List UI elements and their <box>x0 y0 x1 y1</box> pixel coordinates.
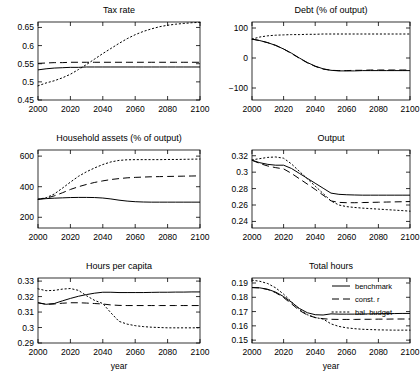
series-line-bal-budget <box>38 22 200 85</box>
x-tick-label: 2000 <box>243 347 262 357</box>
y-tick-label: 0.16 <box>231 321 248 331</box>
series-line-benchmark <box>38 197 200 202</box>
x-tick-label: 2060 <box>126 104 145 114</box>
x-tick-label: 2040 <box>306 104 325 114</box>
x-tick-label: 2100 <box>191 104 210 114</box>
legend-label: const. r <box>355 295 380 304</box>
chart-title: Debt (% of output) <box>294 5 367 15</box>
x-tick-label: 2040 <box>306 232 325 242</box>
y-tick-label: 0.65 <box>17 22 34 32</box>
chart-panel-tax-rate: Tax rate2000202020402060208021000.450.50… <box>0 0 210 128</box>
chart-title: Output <box>317 133 345 143</box>
chart-title: Total hours <box>309 261 354 271</box>
x-tick-label: 2080 <box>158 232 177 242</box>
y-tick-label: 0.17 <box>231 307 248 317</box>
x-tick-label: 2100 <box>401 232 420 242</box>
y-tick-label: 0.26 <box>231 200 248 210</box>
series-line-const-r <box>38 176 200 199</box>
chart-panel-total-hours: Total hours2000202020402060208021000.150… <box>210 256 420 383</box>
series-line-benchmark <box>252 39 410 71</box>
y-tick-label: 600 <box>20 151 34 161</box>
series-line-bal-budget <box>252 34 410 39</box>
y-tick-label: 0.6 <box>22 41 34 51</box>
x-tick-label: 2020 <box>274 347 293 357</box>
y-tick-label: 0.19 <box>231 278 248 288</box>
x-tick-label: 2060 <box>126 347 145 357</box>
x-tick-label: 2040 <box>93 104 112 114</box>
series-line-const-r <box>38 303 200 306</box>
x-tick-label: 2020 <box>61 347 80 357</box>
series-line-const-r <box>38 62 200 63</box>
x-tick-label: 2000 <box>29 347 48 357</box>
y-tick-label: 0.32 <box>231 151 248 161</box>
y-tick-label: 0.28 <box>231 184 248 194</box>
chart-panel-household-assets: Household assets (% of output)2000202020… <box>0 128 210 256</box>
y-tick-label: 0.31 <box>17 307 34 317</box>
plot-frame <box>252 150 410 228</box>
x-tick-label: 2100 <box>191 347 210 357</box>
chart-panel-debt: Debt (% of output)2000202020402060208021… <box>210 0 420 128</box>
y-tick-label: 0.32 <box>17 292 34 302</box>
plot-frame <box>38 278 200 343</box>
chart-title: Tax rate <box>103 5 135 15</box>
legend-label: benchmark <box>355 282 392 291</box>
legend-label: bal. budget <box>355 308 393 317</box>
x-tick-label: 2060 <box>337 104 356 114</box>
series-line-bal-budget <box>38 289 200 328</box>
x-tick-label: 2020 <box>61 232 80 242</box>
series-line-const-r <box>252 39 410 71</box>
chart-title: Household assets (% of output) <box>56 133 182 143</box>
y-tick-label: 0.15 <box>231 335 248 345</box>
y-tick-label: 0.45 <box>17 95 34 105</box>
x-axis-label: year <box>323 361 340 371</box>
x-tick-label: 2040 <box>93 232 112 242</box>
y-tick-label: 0.33 <box>17 276 34 286</box>
x-axis-label: year <box>111 361 128 371</box>
series-line-const-r <box>252 160 410 202</box>
x-tick-label: 2020 <box>61 104 80 114</box>
y-tick-label: 0.3 <box>22 323 34 333</box>
plot-frame <box>38 150 200 228</box>
y-tick-label: 0.24 <box>231 216 248 226</box>
x-tick-label: 2000 <box>243 232 262 242</box>
chart-panel-hours-per-capita: Hours per capita200020202040206020802100… <box>0 256 210 383</box>
series-line-benchmark <box>38 292 200 304</box>
x-tick-label: 2080 <box>158 104 177 114</box>
x-tick-label: 2080 <box>158 347 177 357</box>
x-tick-label: 2040 <box>306 347 325 357</box>
figure-panel-grid: Tax rate2000202020402060208021000.450.50… <box>0 0 420 383</box>
x-tick-label: 2020 <box>274 232 293 242</box>
x-tick-label: 2000 <box>29 232 48 242</box>
x-tick-label: 2000 <box>29 104 48 114</box>
x-tick-label: 2000 <box>243 104 262 114</box>
y-tick-label: 100 <box>234 23 248 33</box>
y-tick-label: 0 <box>243 53 248 63</box>
legend: benchmarkconst. rbal. budget <box>332 282 393 317</box>
y-tick-label: 0.3 <box>236 167 248 177</box>
chart-panel-output: Output2000202020402060208021000.240.260.… <box>210 128 420 256</box>
y-tick-label: −100 <box>229 83 248 93</box>
x-tick-label: 2020 <box>274 104 293 114</box>
plot-frame <box>38 22 200 100</box>
x-tick-label: 2080 <box>369 104 388 114</box>
y-tick-label: 400 <box>20 182 34 192</box>
x-tick-label: 2060 <box>337 347 356 357</box>
x-tick-label: 2080 <box>369 347 388 357</box>
series-line-benchmark <box>38 67 200 70</box>
x-tick-label: 2100 <box>401 347 420 357</box>
y-tick-label: 0.55 <box>17 59 34 69</box>
x-tick-label: 2100 <box>191 232 210 242</box>
y-tick-label: 0.29 <box>17 338 34 348</box>
x-tick-label: 2040 <box>93 347 112 357</box>
x-tick-label: 2060 <box>126 232 145 242</box>
y-tick-label: 0.5 <box>22 77 34 87</box>
series-line-benchmark <box>252 160 410 195</box>
y-tick-label: 200 <box>20 212 34 222</box>
chart-title: Hours per capita <box>86 261 152 271</box>
x-tick-label: 2080 <box>369 232 388 242</box>
x-tick-label: 2060 <box>337 232 356 242</box>
x-tick-label: 2100 <box>401 104 420 114</box>
y-tick-label: 0.18 <box>231 292 248 302</box>
